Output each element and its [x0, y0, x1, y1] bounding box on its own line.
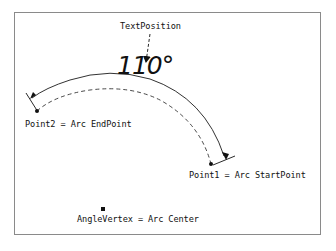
point2-marker	[35, 109, 39, 113]
angle-vertex-label: AngleVertex = Arc Center	[77, 214, 199, 224]
extension-lines	[26, 93, 235, 165]
dimension-arc	[30, 73, 229, 160]
text-position-label: TextPosition	[120, 21, 181, 31]
angle-value-text: 110°	[117, 51, 173, 80]
point1-marker	[209, 162, 213, 166]
arrowhead-end-icon	[30, 92, 36, 99]
extension-line-point1	[213, 156, 235, 165]
point2-label: Point2 = Arc EndPoint	[25, 119, 132, 129]
point1-label: Point1 = Arc StartPoint	[189, 170, 306, 180]
angle-vertex-marker	[101, 207, 105, 211]
